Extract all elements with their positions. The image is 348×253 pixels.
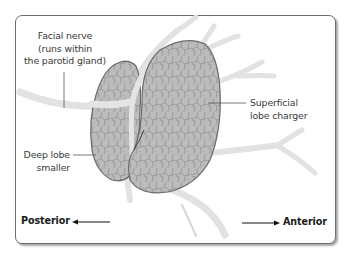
facial-nerve-label-line2: (runs within	[22, 43, 108, 56]
deep-lobe-label-line1: Deep lobe	[14, 149, 70, 162]
deep-lobe-label: Deep lobe smaller	[14, 149, 70, 174]
anterior-label: Anterior	[283, 216, 327, 227]
anterior-arrow	[242, 221, 280, 226]
superficial-lobe-label-line1: Superficial	[250, 97, 330, 110]
facial-nerve-label-line1: Facial nerve	[22, 30, 108, 43]
superficial-lobe-label-line2: lobe charger	[250, 110, 330, 123]
facial-nerve-label-line3: the parotid gland)	[22, 55, 108, 68]
deep-lobe-label-line2: smaller	[14, 162, 70, 175]
superficial-lobe-label: Superficial lobe charger	[250, 97, 330, 122]
posterior-arrow	[72, 220, 110, 225]
posterior-label: Posterior	[21, 215, 70, 226]
facial-nerve-label: Facial nerve (runs within the parotid gl…	[22, 30, 108, 68]
